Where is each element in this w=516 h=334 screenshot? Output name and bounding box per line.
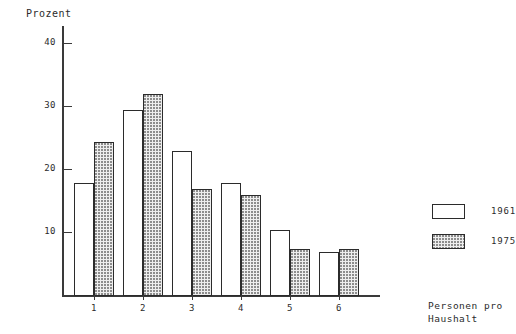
- legend-label-1975: 1975: [491, 236, 516, 246]
- bar-group-1: [74, 26, 114, 296]
- x-tick-mark-3: [192, 295, 193, 300]
- y-tick-label: 40: [36, 37, 56, 47]
- y-tick-label: 30: [36, 100, 56, 110]
- x-tick-label-1: 1: [84, 303, 104, 313]
- bar-group-6: [319, 26, 359, 296]
- legend-swatch-1961: [432, 204, 465, 219]
- bar-group-3: [172, 26, 212, 296]
- bar-1961-3: [172, 151, 192, 296]
- x-tick-label-6: 6: [329, 303, 349, 313]
- legend-item-1961: 1961: [432, 196, 516, 226]
- legend-item-1975: 1975: [432, 226, 516, 256]
- caption-line-1: Personen pro: [428, 299, 503, 312]
- legend-swatch-1975: [432, 234, 465, 249]
- caption-line-2: Haushalt: [428, 312, 503, 325]
- bar-1961-6: [319, 252, 339, 296]
- x-tick-mark-1: [94, 295, 95, 300]
- legend: 1961 1975: [432, 196, 516, 256]
- bar-1975-6: [339, 249, 359, 296]
- bar-1961-4: [221, 183, 241, 296]
- x-tick-label-4: 4: [231, 303, 251, 313]
- bar-group-5: [270, 26, 310, 296]
- bar-1975-1: [94, 142, 114, 296]
- x-tick-mark-4: [241, 295, 242, 300]
- x-tick-label-3: 3: [182, 303, 202, 313]
- plot-area: [62, 26, 380, 296]
- x-tick-label-5: 5: [280, 303, 300, 313]
- x-tick-mark-6: [339, 295, 340, 300]
- x-axis-caption: Personen pro Haushalt: [428, 299, 503, 325]
- bar-1961-5: [270, 230, 290, 296]
- bar-1975-5: [290, 249, 310, 296]
- y-axis-title: Prozent: [26, 8, 72, 19]
- bar-1961-1: [74, 183, 94, 296]
- legend-label-1961: 1961: [491, 206, 516, 216]
- x-tick-mark-5: [290, 295, 291, 300]
- x-tick-label-2: 2: [133, 303, 153, 313]
- y-tick-label: 10: [36, 226, 56, 236]
- bar-group-2: [123, 26, 163, 296]
- bar-1975-3: [192, 189, 212, 296]
- bar-group-4: [221, 26, 261, 296]
- x-tick-mark-2: [143, 295, 144, 300]
- bar-1975-4: [241, 195, 261, 296]
- y-tick-label: 20: [36, 163, 56, 173]
- bar-1961-2: [123, 110, 143, 296]
- bar-1975-2: [143, 94, 163, 296]
